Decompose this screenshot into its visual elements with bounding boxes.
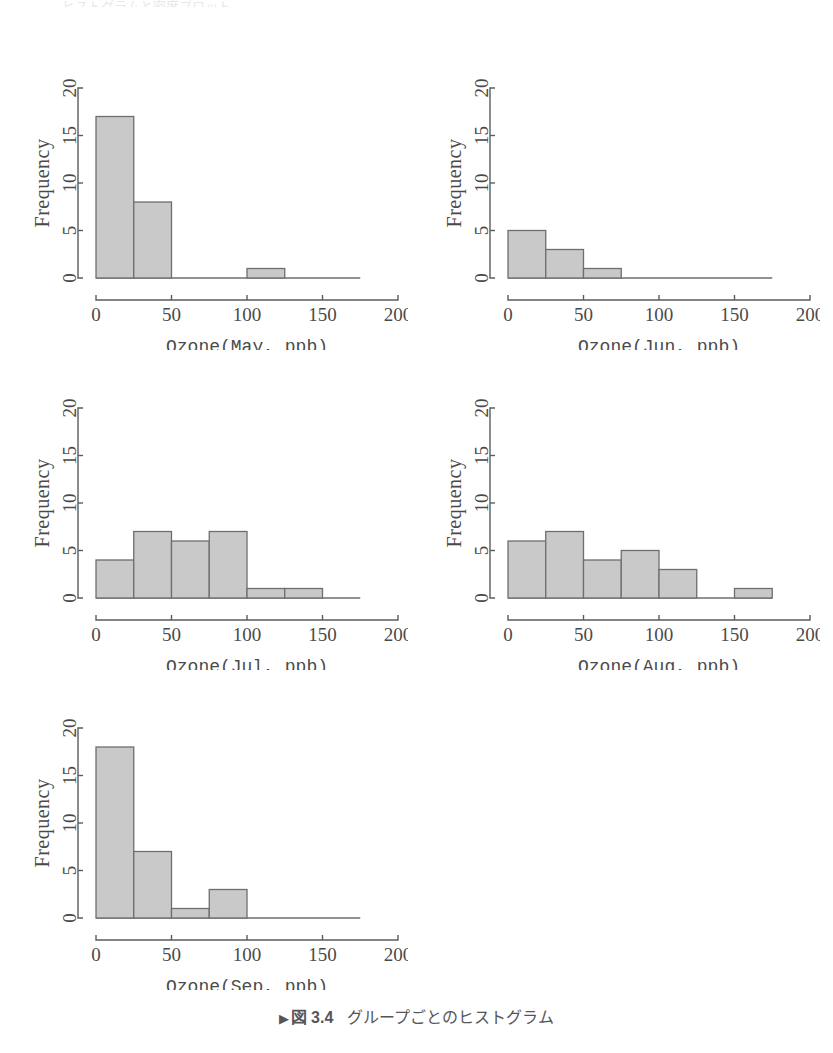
y-axis-tick-label: 20 [59, 399, 80, 418]
figure-page: ヒストグラムと密度プロット 05101520Frequency050100150… [0, 0, 833, 1053]
x-axis-title: Ozone(Jul, ppb) [166, 657, 328, 670]
histogram-bar [546, 532, 584, 599]
caption-text: グループごとのヒストグラム [347, 1009, 554, 1026]
x-axis-tick-label: 0 [503, 304, 513, 325]
histogram-bar [247, 269, 285, 279]
histogram-bar [172, 541, 210, 598]
histogram-bar [134, 852, 172, 919]
histogram-panel-jun: 05101520Frequency050100150200Ozone(Jun, … [420, 30, 820, 350]
page-top-bleed-text: ヒストグラムと密度プロット [62, 0, 342, 7]
y-axis-tick-label: 15 [59, 126, 80, 145]
y-axis-tick-label: 10 [59, 494, 80, 513]
y-axis-tick-label: 5 [59, 866, 80, 876]
histogram-bar [96, 117, 134, 279]
histogram-plot: 05101520Frequency050100150200Ozone(May, … [8, 30, 408, 350]
x-axis-tick-label: 0 [91, 944, 101, 965]
y-axis-tick-label: 0 [471, 273, 492, 283]
x-axis-tick-label: 100 [233, 944, 262, 965]
x-axis-tick-label: 0 [91, 624, 101, 645]
x-axis-tick-label: 50 [162, 944, 181, 965]
x-axis-tick-label: 200 [384, 304, 408, 325]
histogram-panel-jul: 05101520Frequency050100150200Ozone(Jul, … [8, 350, 408, 670]
y-axis-title: Frequency [443, 459, 466, 548]
caption-figure-number: 図 3.4 [291, 1009, 334, 1026]
histogram-bar [584, 269, 622, 279]
y-axis-tick-label: 10 [59, 814, 80, 833]
x-axis-title: Ozone(Sep, ppb) [166, 977, 328, 990]
y-axis-tick-label: 10 [471, 174, 492, 193]
y-axis-title: Frequency [31, 139, 54, 228]
histogram-bar [96, 560, 134, 598]
y-axis-title: Frequency [31, 779, 54, 868]
y-axis-tick-label: 15 [59, 446, 80, 465]
histogram-bar [247, 589, 285, 599]
y-axis-tick-label: 15 [471, 446, 492, 465]
x-axis-title: Ozone(May, ppb) [166, 337, 328, 350]
histogram-bar [735, 589, 773, 599]
x-axis-tick-label: 50 [162, 304, 181, 325]
caption-marker-icon: ▶ [279, 1011, 289, 1026]
x-axis-tick-label: 100 [645, 624, 674, 645]
y-axis-tick-label: 10 [59, 174, 80, 193]
x-axis-tick-label: 200 [796, 304, 820, 325]
y-axis-tick-label: 20 [59, 79, 80, 98]
x-axis-tick-label: 0 [91, 304, 101, 325]
x-axis-tick-label: 100 [233, 304, 262, 325]
y-axis-tick-label: 20 [471, 79, 492, 98]
y-axis-tick-label: 10 [471, 494, 492, 513]
histogram-panel-sep: 05101520Frequency050100150200Ozone(Sep, … [8, 670, 408, 990]
y-axis-tick-label: 0 [59, 593, 80, 603]
y-axis-tick-label: 5 [59, 546, 80, 556]
y-axis-tick-label: 5 [59, 226, 80, 236]
x-axis-title: Ozone(Jun, ppb) [578, 337, 740, 350]
x-axis-tick-label: 150 [308, 304, 337, 325]
x-axis-tick-label: 50 [574, 624, 593, 645]
histogram-bar [134, 532, 172, 599]
x-axis-tick-label: 50 [162, 624, 181, 645]
x-axis-tick-label: 0 [503, 624, 513, 645]
y-axis-tick-label: 0 [471, 593, 492, 603]
y-axis-tick-label: 15 [471, 126, 492, 145]
histogram-plot: 05101520Frequency050100150200Ozone(Sep, … [8, 670, 408, 990]
x-axis-tick-label: 100 [645, 304, 674, 325]
histogram-panel-grid: 05101520Frequency050100150200Ozone(May, … [0, 30, 833, 995]
histogram-bar [134, 202, 172, 278]
histogram-bar [508, 541, 546, 598]
histogram-plot: 05101520Frequency050100150200Ozone(Jun, … [420, 30, 820, 350]
figure-caption: ▶図 3.4グループごとのヒストグラム [0, 1004, 833, 1028]
x-axis-title: Ozone(Aug, ppb) [578, 657, 740, 670]
y-axis-tick-label: 20 [471, 399, 492, 418]
histogram-bar [209, 890, 247, 919]
x-axis-tick-label: 200 [384, 944, 408, 965]
y-axis-tick-label: 15 [59, 766, 80, 785]
y-axis-title: Frequency [443, 139, 466, 228]
histogram-plot: 05101520Frequency050100150200Ozone(Aug, … [420, 350, 820, 670]
histogram-bar [659, 570, 697, 599]
histogram-bar [584, 560, 622, 598]
y-axis-tick-label: 0 [59, 273, 80, 283]
histogram-bar [546, 250, 584, 279]
histogram-bar [96, 747, 134, 918]
histogram-bar [621, 551, 659, 599]
x-axis-tick-label: 100 [233, 624, 262, 645]
y-axis-tick-label: 5 [471, 226, 492, 236]
histogram-plot: 05101520Frequency050100150200Ozone(Jul, … [8, 350, 408, 670]
x-axis-tick-label: 150 [308, 624, 337, 645]
y-axis-tick-label: 0 [59, 913, 80, 923]
histogram-bar [508, 231, 546, 279]
histogram-bar [209, 532, 247, 599]
x-axis-tick-label: 50 [574, 304, 593, 325]
histogram-panel-may: 05101520Frequency050100150200Ozone(May, … [8, 30, 408, 350]
x-axis-tick-label: 150 [308, 944, 337, 965]
x-axis-tick-label: 150 [720, 304, 749, 325]
histogram-panel-aug: 05101520Frequency050100150200Ozone(Aug, … [420, 350, 820, 670]
x-axis-tick-label: 200 [384, 624, 408, 645]
x-axis-tick-label: 200 [796, 624, 820, 645]
y-axis-tick-label: 20 [59, 719, 80, 738]
y-axis-title: Frequency [31, 459, 54, 548]
histogram-bar [172, 909, 210, 919]
histogram-bar [285, 589, 323, 599]
y-axis-tick-label: 5 [471, 546, 492, 556]
x-axis-tick-label: 150 [720, 624, 749, 645]
